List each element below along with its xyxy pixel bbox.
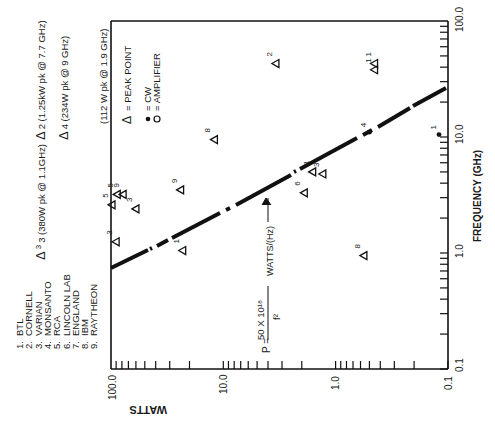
watts-tick-100: 100.0	[107, 375, 118, 400]
legend-peak-label: = PEAK POINT	[122, 46, 133, 111]
equation-denominator: f²	[271, 314, 282, 320]
peak-point-triangle-icon	[360, 252, 367, 260]
annotation-4: Δ4 (234W pk @ 9 GHz)	[56, 36, 71, 140]
peak-point-triangle-icon	[112, 238, 119, 246]
peak-point-triangle-icon	[132, 205, 139, 213]
frequency-axis-label: FREQUENCY (GHz)	[472, 150, 483, 242]
frequency-axis-ticks	[440, 26, 448, 369]
peak-point-triangle-icon	[319, 170, 326, 178]
cw-point-dot-icon	[437, 132, 442, 137]
point-label: 5	[101, 193, 110, 198]
point-label: 1	[364, 52, 373, 57]
point-label: 1	[429, 125, 438, 130]
legend-amplifier-label: = AMPLIFIER	[151, 53, 162, 111]
legend-amplifier-circle-icon	[154, 116, 160, 122]
watts-axis-label: WATTS	[129, 404, 167, 416]
organization-number: 9.	[88, 341, 99, 349]
watts-axis-ticks	[116, 361, 448, 369]
point-label: 3	[125, 197, 134, 202]
offscale-annotations: Δ2 (1.25kW pk @ 7.7 GHz) Δ4 (234W pk @ 9…	[33, 20, 109, 260]
point-label: 3	[312, 162, 321, 167]
point-label: 1	[302, 160, 311, 165]
point-label: 6	[293, 181, 302, 186]
equation-numerator: 50 X 10¹⁸	[255, 300, 266, 340]
legend: Δ = PEAK POINT = CW = AMPLIFIER	[120, 46, 162, 124]
freq-tick-1: 1.0	[454, 244, 465, 258]
watts-tick-10: 10.0	[218, 374, 229, 394]
legend-cw-dot-icon	[146, 117, 151, 122]
peak-point-triangle-icon	[210, 136, 217, 144]
point-label: 2	[265, 52, 274, 57]
organization-list: 1.BTL2.CORNELL3.VARIAN4.MONSANTO5.RCA6.L…	[14, 274, 99, 349]
peak-point-triangle-icon	[309, 168, 316, 176]
freq-tick-10: 10.0	[454, 124, 465, 144]
freq-tick-100: 100.0	[454, 7, 465, 32]
organization-name: RAYTHEON	[88, 284, 99, 336]
point-label: 8	[353, 244, 362, 249]
point-label: 8	[203, 128, 212, 133]
watts-tick-1: 1.0	[330, 376, 341, 390]
frequency-tick-labels: 0.1 1.0 10.0 100.0	[454, 7, 465, 372]
peak-point-triangle-icon	[177, 186, 184, 194]
equation: P = 50 X 10¹⁸ f² WATTS/(Hz)	[255, 198, 282, 353]
peak-point-triangle-icon	[179, 247, 186, 255]
limit-line	[111, 88, 446, 268]
point-label: 3	[105, 230, 114, 235]
watts-tick-labels: 100.0 10.0 1.0 0.1	[107, 374, 454, 400]
chart: 100.0 10.0 1.0 0.1 WATTS 0.1 1.0 10.0 10…	[0, 0, 495, 433]
watts-tick-0-1: 0.1	[443, 376, 454, 390]
annotation-3: Δ33 (380W pk @ 1.1GHz)	[33, 144, 48, 260]
annotation-112w: (112 W pk @ 1.9 GHz)	[98, 28, 109, 124]
point-label: 9	[170, 178, 179, 183]
cw-point-dot-icon	[367, 130, 372, 135]
peak-point-triangle-icon	[272, 60, 279, 68]
equation-units: WATTS/(Hz)	[265, 226, 275, 276]
legend-peak-symbol: Δ	[120, 116, 134, 124]
point-label: 1	[364, 58, 373, 63]
freq-tick-0-1: 0.1	[454, 358, 465, 372]
peak-point-triangle-icon	[300, 189, 307, 197]
point-label: 1	[172, 239, 181, 244]
annotation-2: Δ2 (1.25kW pk @ 7.7 GHz)	[33, 20, 48, 140]
point-label: 5	[106, 182, 115, 187]
point-label: 4	[359, 122, 368, 127]
